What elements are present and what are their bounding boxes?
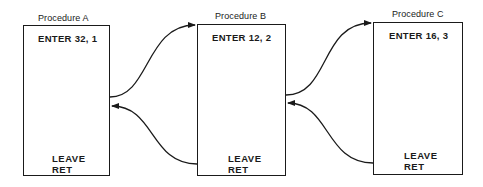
arrow-b-to-c-call xyxy=(286,23,371,95)
arrow-c-to-b-return xyxy=(288,103,373,163)
call-return-arrows xyxy=(0,0,483,187)
arrow-a-to-b-call xyxy=(110,25,195,97)
arrow-b-to-a-return xyxy=(112,106,197,164)
